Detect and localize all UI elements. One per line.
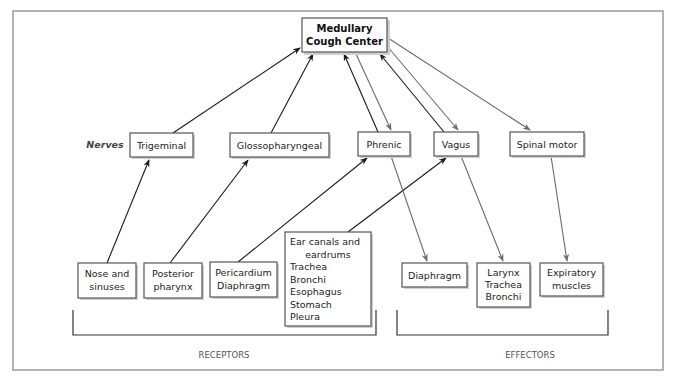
receptor-label: Posterior bbox=[152, 268, 194, 279]
nerve-box-glossopharyngeal: Glossopharyngeal bbox=[230, 133, 331, 159]
nerve-box-phrenic: Phrenic bbox=[358, 132, 412, 158]
nerve-label: Trigeminal bbox=[136, 140, 186, 151]
arrow-ear-to-vagus bbox=[348, 158, 446, 232]
receptor-label: pharynx bbox=[153, 281, 192, 292]
receptor-label: Esophagus bbox=[290, 286, 342, 297]
receptor-box-nose-sinuses: Nose and sinuses bbox=[78, 263, 138, 300]
center-title-line1: Medullary bbox=[316, 23, 373, 34]
arrow-nose-to-trigeminal bbox=[107, 160, 149, 263]
center-title-line2: Cough Center bbox=[306, 36, 383, 47]
nerves-row-label: Nerves bbox=[86, 139, 124, 150]
effector-label: Bronchi bbox=[486, 291, 522, 302]
nerve-label: Phrenic bbox=[366, 139, 401, 150]
nerve-label: Vagus bbox=[442, 139, 471, 150]
arrow-center-to-spinal-motor bbox=[388, 38, 530, 130]
arrow-vagus-to-larynx bbox=[461, 156, 503, 261]
receptor-label: Nose and bbox=[85, 268, 130, 279]
arrow-spinal-motor-to-expiratory bbox=[551, 156, 567, 261]
arrow-center-to-phrenic bbox=[356, 54, 391, 130]
nerve-box-vagus: Vagus bbox=[434, 132, 480, 158]
nerve-label: Spinal motor bbox=[517, 139, 578, 150]
receptor-box-pericardium-diaphragm: Pericardium Diaphragm bbox=[210, 262, 279, 299]
effector-label: Larynx bbox=[487, 267, 520, 278]
effector-label: Trachea bbox=[484, 279, 522, 290]
receptor-label: Ear canals and bbox=[290, 236, 360, 247]
arrow-center-to-vagus bbox=[387, 46, 458, 130]
effector-label: Expiratory bbox=[547, 267, 596, 278]
receptor-label: sinuses bbox=[89, 281, 124, 292]
effector-box-larynx-trachea-bronchi: Larynx Trachea Bronchi bbox=[477, 263, 532, 309]
nerve-label: Glossopharyngeal bbox=[237, 140, 322, 151]
receptor-label: Pleura bbox=[290, 311, 320, 322]
receptor-box-posterior-pharynx: Posterior pharynx bbox=[144, 263, 204, 300]
cough-reflex-diagram: Medullary Cough Center Nerves Trigeminal… bbox=[0, 0, 673, 376]
receptor-label: Diaphragm bbox=[217, 280, 270, 291]
effector-box-expiratory-muscles: Expiratory muscles bbox=[540, 263, 605, 298]
receptor-label: Trachea bbox=[289, 261, 327, 272]
effectors-bracket bbox=[397, 310, 608, 335]
receptor-label: Stomach bbox=[290, 299, 332, 310]
receptor-box-ear-canals-list: Ear canals and eardrums Trachea Bronchi … bbox=[285, 232, 373, 328]
effectors-label: EFFECTORS bbox=[505, 350, 555, 360]
medullary-cough-center-box: Medullary Cough Center bbox=[302, 18, 390, 55]
effector-box-diaphragm: Diaphragm bbox=[402, 263, 469, 289]
arrow-glossopharyngeal-to-center bbox=[271, 54, 313, 133]
arrow-pharynx-to-glossopharyngeal bbox=[170, 160, 248, 263]
effector-label: Diaphragm bbox=[408, 270, 461, 281]
arrow-trigeminal-to-center bbox=[173, 48, 300, 133]
receptor-label: eardrums bbox=[305, 249, 351, 260]
receptor-label: Bronchi bbox=[290, 274, 326, 285]
arrow-phrenic-to-diaphragm bbox=[391, 156, 427, 261]
receptors-label: RECEPTORS bbox=[199, 350, 250, 360]
nerve-box-spinal-motor: Spinal motor bbox=[510, 132, 586, 158]
arrow-vagus-to-center bbox=[380, 54, 444, 132]
effector-label: muscles bbox=[552, 280, 591, 291]
nerve-box-trigeminal: Trigeminal bbox=[130, 133, 195, 159]
receptor-label: Pericardium bbox=[215, 267, 272, 278]
